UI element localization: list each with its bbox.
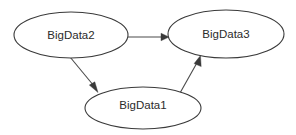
edge-bigdata2-bigdata3 [128, 33, 169, 41]
node-bigdata2[interactable]: BigData2 [14, 12, 128, 58]
diagram-canvas: BigData2 BigData3 BigData1 [0, 0, 296, 135]
edge-line [70, 57, 94, 86]
node-bigdata3[interactable]: BigData3 [168, 10, 284, 58]
node-label: BigData3 [202, 28, 249, 40]
node-label: BigData2 [47, 29, 94, 41]
arrowhead-icon [89, 82, 98, 93]
directed-graph: BigData2 BigData3 BigData1 [0, 0, 296, 135]
edge-bigdata1-bigdata3 [180, 56, 201, 94]
node-label: BigData1 [119, 99, 166, 111]
edge-bigdata2-bigdata1 [70, 57, 98, 93]
node-bigdata1[interactable]: BigData1 [85, 87, 201, 129]
edge-line [180, 61, 198, 93]
